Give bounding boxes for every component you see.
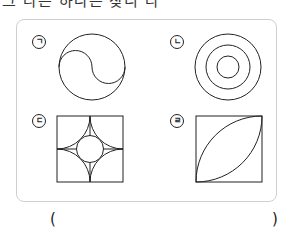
concentric-circles-figure [192, 31, 264, 103]
figure-label-c: ㄷ [32, 114, 46, 128]
answer-open-paren: ( [50, 210, 56, 228]
figure-label-d: ㄹ [170, 114, 184, 128]
answer-blank[interactable]: ( ) [0, 210, 291, 230]
question-text-fragment: 그 다른 하나는 찾니 다 [2, 0, 160, 10]
answer-close-paren: ) [272, 210, 278, 228]
figure-label-b: ㄴ [170, 35, 184, 49]
circle-s-curve-figure [56, 31, 128, 103]
figure-box: ㄱ ㄴ ㄷ ㄹ [16, 19, 277, 202]
square-quarter-arcs-circle-figure [56, 115, 124, 183]
square-leaf-figure [195, 115, 263, 183]
figure-label-a: ㄱ [32, 35, 46, 49]
